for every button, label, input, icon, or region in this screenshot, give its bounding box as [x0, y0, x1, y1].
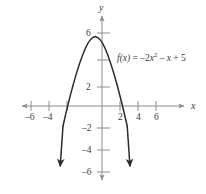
x-tick-label-pos6: 6 — [154, 113, 159, 123]
x-tick-label-neg6: –6 — [25, 113, 35, 123]
equation-equals: = –2 — [130, 53, 150, 63]
function-argument: (x) — [120, 53, 131, 63]
x-axis-label: x — [191, 101, 195, 111]
coordinate-plane — [0, 0, 206, 194]
equation-minus: – — [157, 53, 167, 63]
y-tick-label-neg4: –4 — [82, 146, 92, 156]
y-axis-label: y — [99, 3, 103, 13]
equation-constant: + 5 — [171, 53, 186, 63]
y-tick-label-pos2: 2 — [86, 83, 91, 93]
y-tick-label-neg2: –2 — [82, 124, 92, 134]
y-tick-label-neg6: –6 — [82, 168, 92, 178]
graph-figure: –6 –4 2 4 6 6 2 –2 –4 –6 y x f(x) = –2x2… — [0, 0, 206, 194]
parabola-left-arrow — [60, 126, 63, 167]
x-tick-label-pos2: 2 — [118, 113, 123, 123]
y-tick-label-pos6: 6 — [86, 29, 91, 39]
x-tick-label-neg4: –4 — [43, 113, 53, 123]
parabola-right-arrow — [127, 126, 130, 167]
x-tick-label-pos4: 4 — [136, 113, 141, 123]
function-equation-label: f(x) = –2x2 – x + 5 — [117, 54, 186, 64]
